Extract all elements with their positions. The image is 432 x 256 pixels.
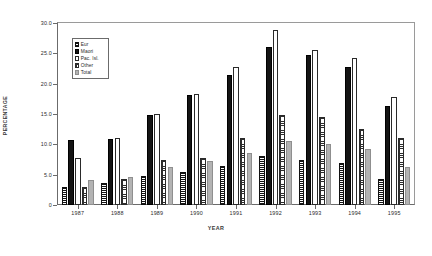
bar-total-1989	[168, 167, 174, 205]
y-tick-label: 10.0	[22, 141, 52, 147]
bar-total-1991	[247, 153, 253, 205]
x-tick-mark	[78, 205, 79, 209]
bar-other-1992	[279, 115, 285, 205]
bar-other-1987	[82, 187, 88, 205]
bar-total-1990	[207, 161, 213, 205]
bar-pac-isl-1994	[352, 58, 358, 205]
legend-swatch-icon	[75, 49, 79, 53]
bar-pac-isl-1989	[154, 114, 160, 205]
bar-group	[137, 23, 177, 205]
x-tick-label: 1994	[333, 210, 377, 216]
legend-label: Total	[81, 70, 92, 75]
y-tick-mark	[53, 84, 57, 85]
y-tick-label: 5.0	[22, 172, 52, 178]
bar-other-1990	[200, 158, 206, 205]
bar-other-1988	[121, 179, 127, 205]
bar-maori-1994	[345, 67, 351, 205]
y-axis-title: PERCENTAGE	[2, 96, 16, 135]
bar-total-1995	[405, 167, 411, 205]
bar-eur-1990	[180, 172, 186, 205]
bar-pac-isl-1992	[273, 30, 279, 205]
legend-item-maori[interactable]: Maori	[75, 48, 106, 55]
bar-other-1989	[161, 160, 167, 206]
x-tick-mark	[315, 205, 316, 209]
y-tick-mark	[53, 53, 57, 54]
bar-total-1994	[365, 149, 371, 205]
x-tick-label: 1988	[95, 210, 139, 216]
x-tick-mark	[394, 205, 395, 209]
x-tick-label: 1993	[293, 210, 337, 216]
bar-total-1988	[128, 177, 134, 206]
bar-other-1993	[319, 117, 325, 205]
y-tick-label: 25.0	[22, 50, 52, 56]
bar-pac-isl-1990	[194, 94, 200, 205]
bar-other-1995	[398, 138, 404, 205]
bar-group	[374, 23, 414, 205]
bar-total-1987	[88, 180, 94, 205]
bar-total-1992	[286, 141, 292, 205]
legend-item-other[interactable]: Other	[75, 62, 106, 69]
x-tick-mark	[355, 205, 356, 209]
x-tick-mark	[157, 205, 158, 209]
x-tick-label: 1990	[174, 210, 218, 216]
chart-legend: EurMaoriPac. Isl.OtherTotal	[72, 38, 109, 79]
bar-maori-1995	[385, 106, 391, 205]
bar-maori-1991	[227, 75, 233, 205]
x-tick-label: 1987	[56, 210, 100, 216]
x-tick-mark	[117, 205, 118, 209]
legend-swatch-icon	[75, 56, 79, 60]
bar-eur-1994	[339, 163, 345, 205]
x-tick-mark	[236, 205, 237, 209]
bar-pac-isl-1988	[115, 138, 121, 205]
y-tick-label: 20.0	[22, 81, 52, 87]
bar-maori-1988	[108, 139, 114, 205]
x-axis-title: YEAR	[0, 225, 432, 231]
bar-eur-1991	[220, 166, 226, 205]
bar-maori-1987	[68, 140, 74, 205]
y-tick-mark	[53, 144, 57, 145]
plot-area	[58, 23, 414, 205]
bar-group	[177, 23, 217, 205]
bar-group	[216, 23, 256, 205]
y-tick-label: 30.0	[22, 20, 52, 26]
x-tick-label: 1989	[135, 210, 179, 216]
bar-eur-1988	[101, 183, 107, 205]
bar-other-1991	[240, 138, 246, 205]
x-tick-mark	[276, 205, 277, 209]
legend-label: Other	[81, 63, 94, 68]
bar-group	[295, 23, 335, 205]
bar-eur-1995	[378, 179, 384, 205]
y-tick-mark	[53, 175, 57, 176]
bar-maori-1992	[266, 47, 272, 205]
legend-label: Pac. Isl.	[81, 56, 99, 61]
bar-maori-1990	[187, 95, 193, 205]
bar-maori-1993	[306, 55, 312, 205]
y-tick-mark	[53, 23, 57, 24]
bar-pac-isl-1995	[391, 97, 397, 205]
legend-label: Maori	[81, 49, 94, 54]
legend-swatch-icon	[75, 63, 79, 67]
bar-chart: PERCENTAGE 05.010.015.020.025.030.0 1987…	[0, 0, 432, 256]
legend-item-pac-isl[interactable]: Pac. Isl.	[75, 55, 106, 62]
y-tick-mark	[53, 114, 57, 115]
bar-other-1994	[359, 129, 365, 205]
legend-swatch-icon	[75, 70, 79, 74]
y-tick-label: 0	[22, 202, 52, 208]
bar-eur-1992	[259, 156, 265, 205]
bar-group	[256, 23, 296, 205]
x-tick-label: 1995	[372, 210, 416, 216]
legend-swatch-icon	[75, 42, 79, 46]
bar-eur-1989	[141, 176, 147, 205]
x-tick-label: 1991	[214, 210, 258, 216]
legend-label: Eur	[81, 42, 89, 47]
bar-eur-1993	[299, 160, 305, 206]
bar-pac-isl-1991	[233, 67, 239, 205]
y-tick-label: 15.0	[22, 111, 52, 117]
bar-eur-1987	[62, 187, 68, 205]
legend-item-eur[interactable]: Eur	[75, 41, 106, 48]
legend-item-total[interactable]: Total	[75, 69, 106, 76]
bar-pac-isl-1987	[75, 158, 81, 205]
x-tick-label: 1992	[254, 210, 298, 216]
bar-total-1993	[326, 144, 332, 205]
bar-pac-isl-1993	[312, 50, 318, 205]
